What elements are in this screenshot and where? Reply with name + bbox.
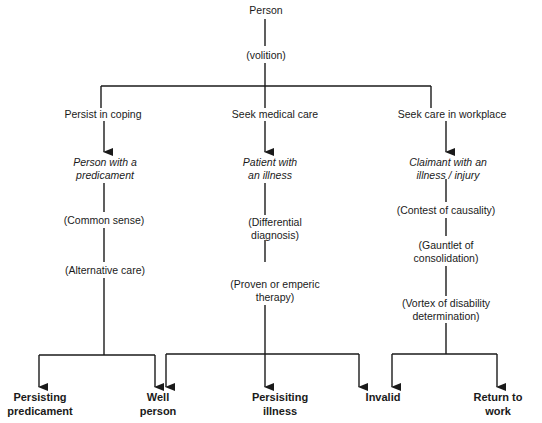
step-contest-of-causality: (Contest of causality) [397,204,496,217]
connector-volition: (volition) [246,49,286,62]
step-label: consolidation) [414,252,479,265]
step-proven-or-emperic-therapy: (Proven or emperic therapy) [230,278,319,304]
outcome-line: Persisiting [252,390,308,404]
diagram-canvas: Person (volition) Persist in coping Pers… [0,0,542,423]
step-label: determination) [402,310,490,323]
outcome-persisting-predicament: Persisting predicament [7,390,72,418]
action-seek-care-in-workplace: Seek care in workplace [398,108,507,121]
step-label: (Alternative care) [65,264,145,277]
step-differential-diagnosis: (Differential diagnosis) [248,216,302,242]
state-line: Claimant with an [409,156,487,169]
outcome-well-person: Well person [140,390,177,418]
outcome-line: Persisting [7,390,72,404]
step-gauntlet-of-consolidation: (Gauntlet of consolidation) [414,239,479,265]
action-seek-medical-care: Seek medical care [232,108,318,121]
step-label: (Contest of causality) [397,204,496,217]
outcome-line: Invalid [366,390,401,404]
step-label: (Common sense) [64,214,145,227]
outcome-invalid: Invalid [366,390,401,404]
action-label: Seek care in workplace [398,108,507,121]
step-label: diagnosis) [248,229,302,242]
state-line: Patient with [243,156,297,169]
step-label: (Vortex of disability [402,297,490,310]
connector-label: (volition) [246,49,286,62]
action-persist-in-coping: Persist in coping [64,108,141,121]
state-line: an illness [243,169,297,182]
step-label: (Proven or emperic [230,278,319,291]
node-person: Person [249,4,282,17]
step-alternative-care: (Alternative care) [65,264,145,277]
outcome-return-to-work: Return to work [474,390,523,418]
step-label: (Gauntlet of [414,239,479,252]
step-label: (Differential [248,216,302,229]
outcome-line: work [474,404,523,418]
state-line: illness / injury [409,169,487,182]
outcome-line: Well [140,390,177,404]
node-label: Person [249,4,282,17]
state-line: predicament [73,169,137,182]
action-label: Seek medical care [232,108,318,121]
step-vortex-of-disability-determination: (Vortex of disability determination) [402,297,490,323]
step-label: therapy) [230,291,319,304]
state-claimant-with-illness-injury: Claimant with an illness / injury [409,156,487,182]
outcome-line: Return to [474,390,523,404]
outcome-line: predicament [7,404,72,418]
state-line: Person with a [73,156,137,169]
state-patient-with-illness: Patient with an illness [243,156,297,182]
state-person-with-predicament: Person with a predicament [73,156,137,182]
outcome-persisting-illness: Persisiting illness [252,390,308,418]
step-common-sense: (Common sense) [64,214,145,227]
outcome-line: person [140,404,177,418]
outcome-line: illness [252,404,308,418]
action-label: Persist in coping [64,108,141,121]
